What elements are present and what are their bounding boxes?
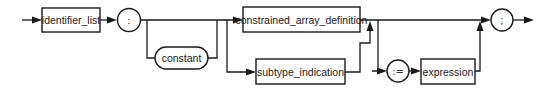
node-semicolon: ;	[491, 9, 513, 31]
identifier-list-label: identifier_list	[42, 14, 100, 26]
node-constrained-array-definition: constrained_array_definition	[236, 7, 368, 32]
node-subtype-indication: subtype_indication	[256, 59, 345, 84]
entry-connector	[22, 17, 42, 24]
constrained-array-definition-label: constrained_array_definition	[236, 14, 368, 26]
node-assign: :=	[387, 60, 409, 82]
node-expression: expression	[421, 59, 475, 84]
expression-label: expression	[423, 66, 474, 78]
colon-label: :	[127, 15, 130, 26]
node-identifier-list: identifier_list	[42, 8, 100, 32]
assign-branch	[372, 20, 378, 71]
semicolon-label: ;	[500, 15, 503, 26]
syntax-diagram: identifier_list : constant constrained_a…	[0, 0, 553, 92]
subtype-indication-label: subtype_indication	[257, 66, 344, 78]
assign-label: :=	[392, 66, 404, 77]
node-colon: :	[118, 9, 141, 32]
exit-connector	[513, 17, 534, 24]
constant-label: constant	[162, 52, 202, 64]
node-constant: constant	[155, 47, 208, 69]
